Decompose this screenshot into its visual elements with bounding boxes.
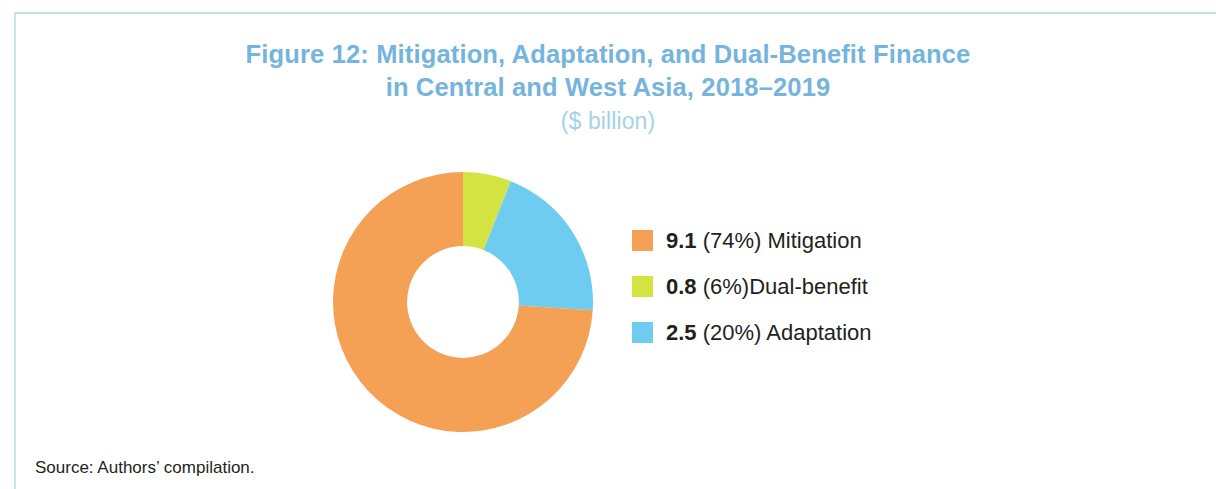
legend-item-label: Adaptation xyxy=(766,320,871,345)
legend-item-label: Dual-benefit xyxy=(749,274,868,299)
legend-swatch-icon xyxy=(632,322,653,343)
legend-swatch-icon xyxy=(632,276,653,297)
legend-item: 9.1 (74%) Mitigation xyxy=(632,223,872,258)
legend-item-value: 2.5 xyxy=(666,320,697,345)
legend-item-percent: (6%) xyxy=(697,274,750,299)
legend-item: 2.5 (20%) Adaptation xyxy=(632,315,872,350)
legend-item-percent: (74%) xyxy=(697,228,768,253)
figure-title-line-1: Figure 12: Mitigation, Adaptation, and D… xyxy=(0,38,1216,71)
legend-item-text: 9.1 (74%) Mitigation xyxy=(666,228,862,254)
legend-item-text: 2.5 (20%) Adaptation xyxy=(666,320,872,346)
legend-item-percent: (20%) xyxy=(697,320,767,345)
legend-item: 0.8 (6%)Dual-benefit xyxy=(632,269,872,304)
legend-item-text: 0.8 (6%)Dual-benefit xyxy=(666,274,868,300)
figure-source-note: Source: Authors’ compilation. xyxy=(35,458,255,478)
legend-item-label: Mitigation xyxy=(768,228,862,253)
chart-legend: 9.1 (74%) Mitigation0.8 (6%)Dual-benefit… xyxy=(632,223,872,361)
legend-swatch-icon xyxy=(632,230,653,251)
legend-item-value: 9.1 xyxy=(666,228,697,253)
figure-title-line-2: in Central and West Asia, 2018–2019 xyxy=(0,71,1216,104)
legend-item-value: 0.8 xyxy=(666,274,697,299)
figure-page: Figure 12: Mitigation, Adaptation, and D… xyxy=(0,0,1216,489)
donut-chart xyxy=(333,172,593,432)
page-frame-top-rule xyxy=(14,12,1216,14)
donut-chart-svg xyxy=(333,172,593,432)
figure-title-block: Figure 12: Mitigation, Adaptation, and D… xyxy=(0,38,1216,137)
figure-subtitle-unit: ($ billion) xyxy=(0,107,1216,137)
